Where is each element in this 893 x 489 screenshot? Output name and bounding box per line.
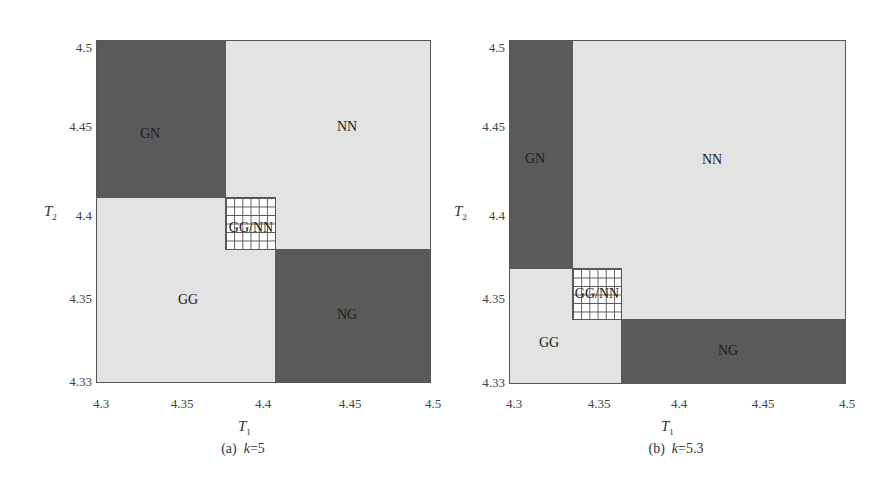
caption-b: (b) k=5.3 [649,441,704,457]
y-tick: 4.33 [482,375,505,391]
label-gn: GN [525,151,545,167]
y-tick: 4.35 [69,291,92,307]
x-tick: 4.3 [93,396,109,412]
label-gg-nn: GG/NN [229,220,273,236]
x-tick: 4.35 [588,396,611,412]
x-tick: 4.45 [339,396,362,412]
label-gg: GG [539,335,559,351]
y-tick: 4.5 [76,40,92,56]
x-tick: 4.3 [506,396,522,412]
x-axis-label: T1 [238,418,251,437]
x-tick: 4.5 [425,396,441,412]
label-gg: GG [178,292,198,308]
y-tick: 4.45 [69,119,92,135]
y-tick: 4.4 [76,208,92,224]
x-tick: 4.45 [752,396,775,412]
y-axis-label: T2 [44,203,57,222]
y-tick: 4.45 [482,119,505,135]
x-tick: 4.5 [839,396,855,412]
caption-a: (a) k=5 [221,441,265,457]
label-nn: NN [702,152,722,168]
plot-frame [96,40,431,383]
label-gn: GN [140,126,160,142]
plot-frame [509,40,846,384]
x-tick: 4.4 [255,396,271,412]
y-tick: 4.5 [489,40,505,56]
label-ng: NG [718,343,738,359]
x-tick: 4.35 [171,396,194,412]
x-tick: 4.4 [671,396,687,412]
y-tick: 4.4 [489,208,505,224]
x-axis-label: T1 [661,418,674,437]
y-axis-label: T2 [454,203,467,222]
label-gg-nn: GG/NN [575,286,619,302]
y-tick: 4.33 [69,374,92,390]
label-ng: NG [337,307,357,323]
y-tick: 4.35 [482,291,505,307]
label-nn: NN [337,119,357,135]
